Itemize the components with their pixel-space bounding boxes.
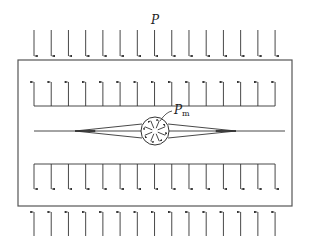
inclusion-circle [141,117,169,145]
upper-inner-pressure-arrows [34,82,275,106]
inner-pressure-label: Pm [174,104,190,118]
external-pressure-arrows-bottom [34,212,275,236]
fracture-diagram [0,0,309,249]
external-pressure-arrows-top [34,30,275,56]
external-pressure-label: P [151,14,159,26]
lower-inner-pressure-arrows [34,164,275,189]
